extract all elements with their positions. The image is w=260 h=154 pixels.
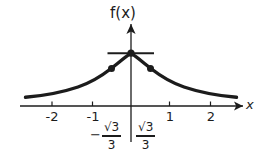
y-axis-label: f(x)	[110, 6, 136, 21]
x-tick-label-neg2: -2	[43, 110, 61, 123]
inflection-point-left	[108, 65, 115, 72]
x-tick-label-pos-sqrt3-over-3: √3 3	[136, 120, 155, 152]
fraction-numerator: √3	[136, 120, 155, 135]
x-axis-label: x	[246, 98, 254, 111]
fraction-stack: √3 3	[136, 120, 155, 152]
fraction-denominator: 3	[140, 137, 152, 152]
x-tick-label-pos1: 1	[163, 110, 177, 123]
x-tick-label-pos2: 2	[204, 110, 218, 123]
function-graph-figure: f(x) x -2 -1 1 2 − √3 3 √3 3	[0, 0, 260, 154]
fraction-stack: √3 3	[102, 120, 121, 152]
maximum-point	[127, 50, 134, 57]
fraction-denominator: 3	[106, 137, 118, 152]
fraction-numerator: √3	[102, 120, 121, 135]
x-tick-label-neg-sqrt3-over-3: − √3 3	[90, 120, 121, 152]
minus-sign: −	[90, 127, 101, 144]
inflection-point-right	[147, 65, 154, 72]
plot-canvas	[0, 0, 260, 154]
